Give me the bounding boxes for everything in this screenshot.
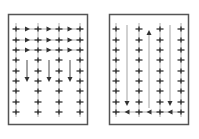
arrow-right-icon [25,48,30,53]
arrow-left-icon [147,110,152,115]
arrow-right-icon [68,48,73,53]
arrow-down-icon [168,101,173,106]
arrow-down-icon [25,77,30,82]
arrow-up-icon [147,30,152,35]
arrow-right-icon [25,38,30,43]
arrow-right-icon [47,48,52,53]
arrow-right-icon [68,27,73,32]
scan-pattern-diagram [0,0,199,139]
arrow-right-icon [47,27,52,32]
arrow-down-icon [47,77,52,82]
arrow-left-icon [125,110,130,115]
arrow-right-icon [47,38,52,43]
arrow-right-icon [25,27,30,32]
arrow-right-icon [68,38,73,43]
arrow-down-icon [125,101,130,106]
panel-border-left [9,15,88,125]
arrow-left-icon [168,110,173,115]
arrow-down-icon [68,77,73,82]
